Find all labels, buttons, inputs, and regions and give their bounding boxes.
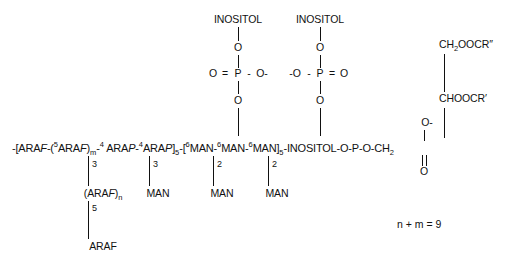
- branch-arabinan-terminal-araf: ARAF: [89, 241, 117, 252]
- main-chain-formula: -[ARAF-(5ARAF)m-4 ARAP-4ARAP]5-[6MAN-6MA…: [12, 140, 394, 157]
- phosphate-left-dash: -: [247, 68, 250, 79]
- branch-arabinan-linkage-bottom: 5: [92, 204, 97, 213]
- phosphate-right-inositol-label: INOSITOL: [296, 14, 344, 25]
- glyceride-bond-c2-c3: [444, 108, 445, 138]
- branch-man-3-linkage: 2: [272, 160, 277, 169]
- phosphodiester-carbonyl-o: O: [420, 166, 428, 177]
- phosphate-right-bond-inositol-o: [320, 27, 321, 41]
- branch-man-2-label: MAN: [210, 188, 233, 199]
- branch-arabinan-label: (ARAF)n: [84, 188, 123, 203]
- main-chain-segment-2: -(: [47, 142, 54, 154]
- branch-arabinan-bond-bottom: [88, 201, 89, 239]
- phosphate-right-equals-sign: =: [329, 68, 335, 79]
- main-chain-segment-0: -[ARA: [12, 142, 40, 154]
- main-chain-segment-14: ARA: [143, 142, 165, 154]
- branch-man-1-bond: [149, 156, 150, 186]
- phosphate-left-equals-sign: =: [222, 68, 228, 79]
- branch-man-3-bond: [268, 156, 269, 186]
- phosphate-left-inositol-label: INOSITOL: [214, 14, 262, 25]
- phosphodiester-bond-o-p: [424, 130, 425, 141]
- main-chain-segment-10: ARA: [104, 142, 128, 154]
- glyceride-bond-c1-c2: [444, 54, 445, 92]
- main-chain-segment-26: -INOSITOL-O-P-O-CH: [284, 142, 390, 154]
- main-chain-segment-24: MAN]: [253, 142, 280, 154]
- main-chain-segment-22: MAN-: [221, 142, 248, 154]
- branch-man-2-bond: [213, 156, 214, 186]
- phosphate-left-p-atom: P: [235, 68, 242, 79]
- phosphate-left-bond-p-o-lower: [238, 81, 239, 94]
- branch-man-1-linkage: 3: [153, 160, 158, 169]
- branch-arabinan-linkage-top: 3: [92, 160, 97, 169]
- main-chain-segment-27: 2: [390, 148, 394, 157]
- glyceride-position-1-label: CH2OOCR″: [439, 39, 493, 54]
- phosphodiester-anion-o: O-: [421, 117, 432, 128]
- chemical-structure-figure: INOSITOL O O = P - O- O INOSITOL O -O - …: [0, 0, 506, 270]
- main-chain-segment-4: ARA: [58, 142, 80, 154]
- phosphate-right-bond-o-chain: [320, 108, 321, 136]
- phosphate-left-bridge-o: O: [234, 42, 242, 53]
- phosphate-right-double-bond-o: O: [340, 68, 348, 79]
- glyceride-position-2-label: CHOOCR′: [439, 93, 487, 104]
- phosphate-left-bond-o-chain: [238, 108, 239, 136]
- branch-man-1-label: MAN: [146, 188, 169, 199]
- main-chain-segment-20: MAN-: [190, 142, 217, 154]
- phosphate-right-dash: -: [307, 68, 310, 79]
- phosphate-left-anion-o: O-: [256, 68, 267, 79]
- stoichiometry-note: n + m = 9: [397, 218, 441, 230]
- phosphate-left-bond-inositol-o: [238, 27, 239, 41]
- phosphate-left-double-bond-o: O: [209, 68, 217, 79]
- branch-man-2-linkage: 2: [217, 160, 222, 169]
- branch-man-3-label: MAN: [265, 188, 288, 199]
- phosphate-right-anion-o: -O: [289, 68, 300, 79]
- phosphate-left-bottom-o: O: [234, 95, 242, 106]
- phosphate-right-bottom-o: O: [316, 95, 324, 106]
- phosphate-right-p-atom: P: [317, 68, 324, 79]
- phosphate-right-bridge-o: O: [316, 42, 324, 53]
- phosphate-right-bond-p-o-lower: [320, 81, 321, 94]
- branch-arabinan-bond-top: [88, 156, 89, 186]
